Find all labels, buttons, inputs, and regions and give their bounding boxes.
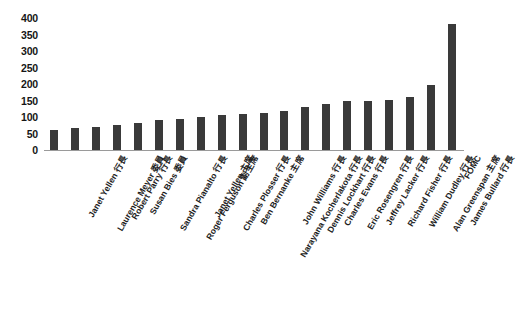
category-slot: Ben Bernanke 主席	[211, 152, 232, 302]
bar-slot	[337, 18, 358, 150]
bar-slot	[211, 18, 232, 150]
category-slot: Sandra Pianalto 行長	[128, 152, 149, 302]
bar-slot	[253, 18, 274, 150]
category-slot: Eric Rosengren 行長	[316, 152, 337, 302]
category-slot: Robert Parry 行長	[86, 152, 107, 302]
bar-slot	[379, 18, 400, 150]
y-axis-tick-label: 350	[21, 30, 38, 40]
bar-slot	[232, 18, 253, 150]
bar[interactable]	[322, 104, 330, 150]
y-axis-tick-label: 400	[21, 13, 38, 23]
bar-group	[44, 18, 462, 150]
bar-slot	[316, 18, 337, 150]
bar-slot	[420, 18, 441, 150]
bar-slot	[44, 18, 65, 150]
category-slot: Charles Plosser 行長	[190, 152, 211, 302]
bar[interactable]	[92, 127, 100, 150]
plot-area	[44, 18, 462, 150]
bar-slot	[128, 18, 149, 150]
bar-slot	[358, 18, 379, 150]
y-axis-tick-label: 50	[27, 129, 38, 139]
bar-slot	[441, 18, 462, 150]
y-axis-tick-label: 150	[21, 96, 38, 106]
category-slot: Roger Ferguson 副主席	[149, 152, 170, 302]
y-axis-tick-label: 300	[21, 46, 38, 56]
bar-slot	[107, 18, 128, 150]
category-slot: Janet Yellen 行長	[44, 152, 65, 302]
bar[interactable]	[176, 119, 184, 150]
bar-slot	[65, 18, 86, 150]
bar-slot	[295, 18, 316, 150]
bar[interactable]	[134, 123, 142, 150]
category-slot: Alan Greenspan 主席	[399, 152, 420, 302]
bar[interactable]	[448, 24, 456, 150]
y-axis-tick-label: 100	[21, 112, 38, 122]
category-slot: Jeffrey Lacker 行長	[337, 152, 358, 302]
bar[interactable]	[343, 101, 351, 150]
y-axis-tick-label: 200	[21, 79, 38, 89]
bar[interactable]	[239, 114, 247, 150]
bar[interactable]	[71, 128, 79, 150]
bar[interactable]	[301, 107, 309, 150]
category-slot: Narayana Kocherlakota 行長	[232, 152, 253, 302]
bar[interactable]	[280, 111, 288, 150]
bar[interactable]	[155, 120, 163, 150]
bar[interactable]	[197, 117, 205, 150]
y-axis-tick-label: 0	[32, 145, 38, 155]
x-axis-category-labels: Janet Yellen 行長Laurence Meyer 委員Robert P…	[44, 152, 462, 302]
footer-artifact	[160, 312, 310, 318]
category-slot: Susan Bies 委員	[107, 152, 128, 302]
category-slot: FOMC	[441, 152, 462, 302]
category-slot: John Williams 行長	[253, 152, 274, 302]
category-slot: Dennis Lockhart 行長	[274, 152, 295, 302]
category-slot: William Dudley 行長	[379, 152, 400, 302]
bar[interactable]	[113, 125, 121, 150]
bar-slot	[86, 18, 107, 150]
bar-slot	[274, 18, 295, 150]
bar-slot	[169, 18, 190, 150]
x-axis-line	[44, 150, 464, 151]
bar-slot	[190, 18, 211, 150]
bar[interactable]	[364, 101, 372, 151]
bar-slot	[399, 18, 420, 150]
y-axis-tick-label: 250	[21, 63, 38, 73]
bar[interactable]	[385, 100, 393, 150]
bar[interactable]	[406, 97, 414, 150]
category-slot: Janet Yellen 主席	[169, 152, 190, 302]
bar-slot	[149, 18, 170, 150]
y-axis: 050100150200250300350400	[0, 18, 42, 150]
bar[interactable]	[50, 130, 58, 150]
category-slot: Richard Fisher 行長	[358, 152, 379, 302]
bar[interactable]	[427, 85, 435, 150]
bar[interactable]	[218, 115, 226, 150]
bar[interactable]	[260, 113, 268, 150]
category-slot: James Bullard 行長	[420, 152, 441, 302]
category-slot: Charles Evans 行長	[295, 152, 316, 302]
category-slot: Laurence Meyer 委員	[65, 152, 86, 302]
